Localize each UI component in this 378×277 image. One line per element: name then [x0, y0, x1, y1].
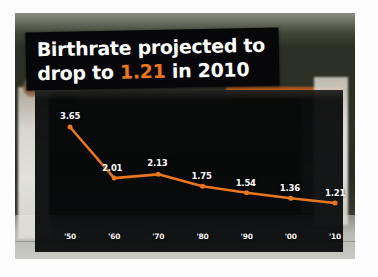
data-point[interactable]	[333, 201, 338, 206]
line-chart-plot: 3.652.012.131.751.541.361.21'50'60'70'80…	[35, 90, 343, 252]
x-axis-tick-label: '00	[285, 232, 297, 241]
data-point[interactable]	[244, 190, 249, 195]
x-axis-tick-label: '70	[152, 232, 164, 241]
data-point[interactable]	[288, 196, 293, 201]
page-root: Birthrate projected to drop to 1.21 in 2…	[0, 0, 378, 277]
data-point[interactable]	[112, 176, 117, 181]
chart-panel: 3.652.012.131.751.541.361.21'50'60'70'80…	[35, 90, 343, 252]
page-title: Birthrate projected to drop to 1.21 in 2…	[25, 27, 284, 90]
data-point[interactable]	[156, 172, 161, 177]
data-point-label: 1.75	[192, 171, 212, 181]
x-axis-tick-label: '60	[108, 232, 120, 241]
data-point[interactable]	[68, 125, 73, 130]
data-point-label: 2.01	[102, 163, 122, 173]
data-point-label: 2.13	[147, 158, 167, 168]
title-highlight-value: 1.21	[120, 60, 166, 83]
x-axis-tick-label: '50	[64, 232, 76, 241]
title-suffix: in 2010	[165, 58, 249, 82]
background-photograph: Birthrate projected to drop to 1.21 in 2…	[15, 13, 355, 259]
chart-svg	[35, 90, 343, 252]
title-prefix: drop to	[37, 61, 120, 85]
data-point-label: 1.36	[280, 183, 300, 193]
x-axis-tick-label: '90	[241, 232, 253, 241]
data-point-label: 3.65	[60, 111, 80, 121]
title-line-2: drop to 1.21 in 2010	[37, 56, 284, 85]
data-point-label: 1.54	[236, 178, 256, 188]
data-point[interactable]	[200, 184, 205, 189]
x-axis-tick-label: '10	[329, 232, 341, 241]
x-axis-tick-label: '80	[196, 232, 208, 241]
data-point-label: 1.21	[325, 188, 345, 198]
